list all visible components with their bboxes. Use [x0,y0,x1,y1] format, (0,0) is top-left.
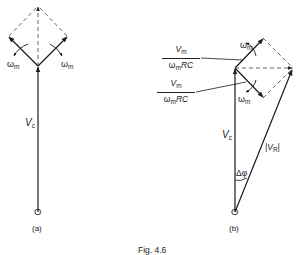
origin-label-b: O [231,207,238,217]
rotation-arrow-right-a [50,44,62,56]
upper-fraction-label: Vm ωmRC [162,45,200,71]
omega-upper-label-b: ωm [240,41,252,52]
vr-vector-b [235,70,292,212]
vc-label-b: Vc [222,130,232,142]
vc-label-a: Vc [25,118,35,130]
omega-lower-label-b: ωm [238,95,250,106]
dashed-left-a [9,6,38,36]
panel-a-label: (a) [32,225,42,233]
omega-left-label-a: ωm [7,60,19,71]
leader-upper [201,58,242,60]
phasor-diagram [0,0,302,255]
lower-fraction-label: Vm ωmRC [157,79,195,105]
leader-lower [196,82,246,92]
dashed-lower-b [263,68,293,98]
panel-b-label: (b) [229,225,239,233]
figure-caption: Fig. 4.6 [138,246,166,255]
dashed-right-a [38,6,67,36]
panel-a [9,6,67,212]
vr-label-b: |VR| [265,143,280,154]
origin-label-a: O [34,207,41,217]
panel-b [196,38,293,212]
dashed-upper-b [263,38,293,68]
sideband-lower-b [235,68,263,97]
delta-phi-label: Δφ [236,169,247,178]
omega-right-label-a: ωm [61,60,73,71]
angle-arc [235,178,247,181]
